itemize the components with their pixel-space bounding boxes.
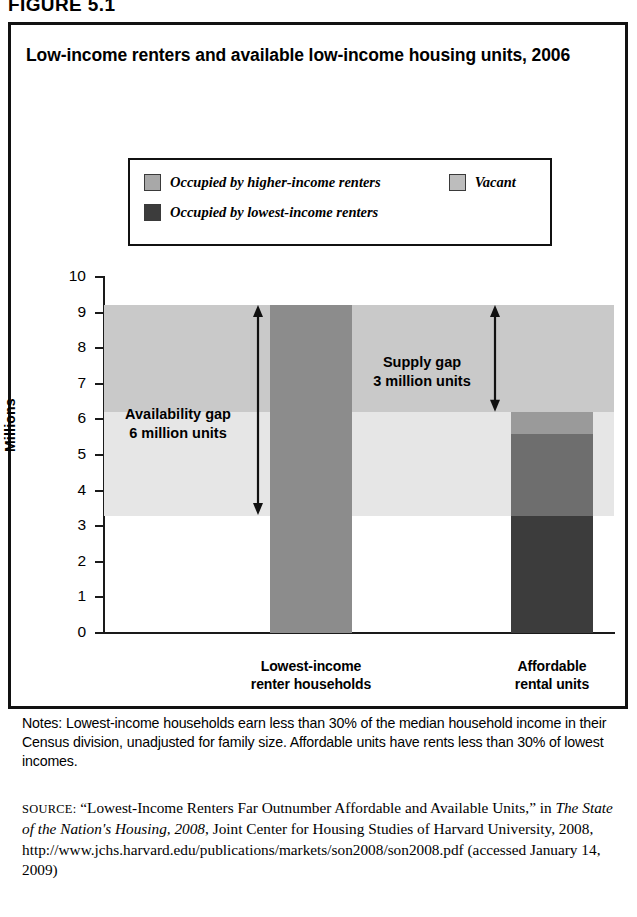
x-axis-category-label: Affordablerental units bbox=[462, 657, 637, 693]
annotation-line: Availability gap bbox=[98, 405, 258, 424]
y-axis-tick-label: 5 bbox=[56, 445, 86, 463]
x-axis-label-line: rental units bbox=[462, 675, 637, 693]
bar-segment bbox=[270, 305, 352, 633]
x-axis-label-line: Lowest-income bbox=[221, 657, 401, 675]
annotation-line: 6 million units bbox=[98, 424, 258, 443]
y-axis-tick-label: 3 bbox=[56, 516, 86, 534]
y-axis-tick-label: 4 bbox=[56, 481, 86, 499]
annotation-line: 3 million units bbox=[342, 372, 502, 391]
x-axis-label-line: Affordable bbox=[462, 657, 637, 675]
availability-gap-label: Availability gap6 million units bbox=[98, 405, 258, 442]
plot-area: Availability gap6 million unitsSupply ga… bbox=[104, 277, 614, 633]
y-axis-tick bbox=[95, 454, 104, 456]
y-axis-tick bbox=[95, 383, 104, 385]
y-axis-tick-label: 2 bbox=[56, 552, 86, 570]
x-axis-category-label: Lowest-incomerenter households bbox=[221, 657, 401, 693]
y-axis-tick-label: 6 bbox=[56, 409, 86, 427]
y-axis-tick bbox=[95, 525, 104, 527]
y-axis-tick-label: 9 bbox=[56, 303, 86, 321]
y-axis-tick bbox=[95, 276, 104, 278]
y-axis-tick-label: 10 bbox=[56, 267, 86, 285]
annotation-line: Supply gap bbox=[342, 353, 502, 372]
y-axis-tick bbox=[95, 561, 104, 563]
y-axis-tick bbox=[95, 312, 104, 314]
figure-number: FIGURE 5.1 bbox=[8, 0, 115, 16]
y-axis-tick-label: 1 bbox=[56, 587, 86, 605]
bar-segment bbox=[511, 434, 593, 516]
y-axis-tick bbox=[95, 632, 104, 634]
y-axis-tick-label: 0 bbox=[56, 623, 86, 641]
y-axis-tick bbox=[95, 596, 104, 598]
supply-gap-label: Supply gap3 million units bbox=[342, 353, 502, 390]
chart-notes: Notes: Lowest-income households earn les… bbox=[22, 714, 618, 771]
y-axis-tick-label: 7 bbox=[56, 374, 86, 392]
y-axis-title: Millions bbox=[2, 398, 18, 452]
y-axis-tick bbox=[95, 347, 104, 349]
source-part-1: “Lowest-Income Renters Far Outnumber Aff… bbox=[76, 799, 555, 816]
bar-segment bbox=[511, 516, 593, 633]
source-prefix: SOURCE: bbox=[22, 802, 76, 816]
y-axis-tick-label: 8 bbox=[56, 338, 86, 356]
chart-plot-wrapper: Millions 012345678910 Availability gap6 … bbox=[8, 22, 628, 709]
chart-source: SOURCE: “Lowest-Income Renters Far Outnu… bbox=[22, 798, 622, 881]
bar-segment bbox=[511, 412, 593, 433]
y-axis-tick bbox=[95, 490, 104, 492]
x-axis-label-line: renter households bbox=[221, 675, 401, 693]
